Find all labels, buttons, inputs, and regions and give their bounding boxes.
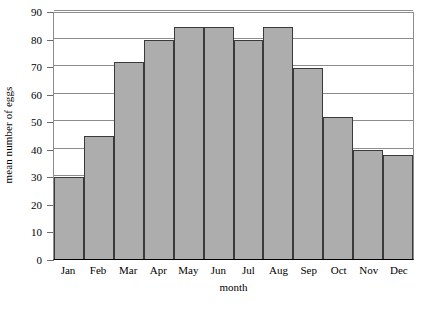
bar-chart: mean number of eggs 0102030405060708090 … (0, 0, 429, 311)
y-axis-tick-labels: 0102030405060708090 (16, 12, 46, 260)
bar-slot (263, 13, 293, 259)
bar-series (54, 13, 413, 259)
y-axis-tick-label: 30 (31, 172, 42, 183)
bar-slot (204, 13, 234, 259)
y-axis-tick-label: 40 (31, 144, 42, 155)
x-axis-tick-labels: JanFebMarAprMayJunJulAugSepOctNovDec (53, 262, 414, 278)
x-axis-tick-label: Feb (83, 262, 113, 278)
x-axis-tick-label: May (173, 262, 203, 278)
y-axis-tick-label: 90 (31, 7, 42, 18)
x-axis-tick-label: Oct (324, 262, 354, 278)
bar (323, 117, 353, 259)
y-axis-tick-label: 70 (31, 62, 42, 73)
bar (293, 68, 323, 259)
plot-area (53, 12, 414, 260)
y-axis-tick-label: 10 (31, 227, 42, 238)
bar-slot (144, 13, 174, 259)
bar (174, 27, 204, 259)
x-axis-title: month (53, 281, 414, 293)
y-axis-tick-label: 50 (31, 117, 42, 128)
x-axis-tick-label: Aug (264, 262, 294, 278)
y-axis-title-text: mean number of eggs (2, 87, 14, 184)
x-axis-tick-label: Jul (233, 262, 263, 278)
y-axis-tick-label: 0 (37, 255, 43, 266)
x-axis-tick-label: Nov (354, 262, 384, 278)
bar (54, 177, 84, 259)
bar-slot (353, 13, 383, 259)
bar-slot (383, 13, 413, 259)
bar-slot (84, 13, 114, 259)
bar (263, 27, 293, 259)
bar (144, 40, 174, 259)
bar (383, 155, 413, 259)
bar (204, 27, 234, 259)
x-axis-tick-label: Jan (53, 262, 83, 278)
bar-slot (114, 13, 144, 259)
bar-slot (293, 13, 323, 259)
x-axis-tick-label: Dec (384, 262, 414, 278)
x-axis-tick-label: Jun (203, 262, 233, 278)
x-axis-tick-label: Mar (113, 262, 143, 278)
bar-slot (234, 13, 264, 259)
y-axis-tick (47, 260, 54, 261)
bar (234, 40, 264, 259)
bar (114, 62, 144, 259)
bar-slot (174, 13, 204, 259)
bar (353, 150, 383, 259)
x-axis-tick-label: Apr (143, 262, 173, 278)
bar-slot (54, 13, 84, 259)
y-axis-tick-label: 80 (31, 34, 42, 45)
y-axis-tick-label: 20 (31, 199, 42, 210)
y-axis-title: mean number of eggs (0, 0, 16, 270)
bar (84, 136, 114, 259)
gridline (54, 10, 413, 11)
x-axis-tick-label: Sep (294, 262, 324, 278)
bar-slot (323, 13, 353, 259)
y-axis-tick-label: 60 (31, 89, 42, 100)
